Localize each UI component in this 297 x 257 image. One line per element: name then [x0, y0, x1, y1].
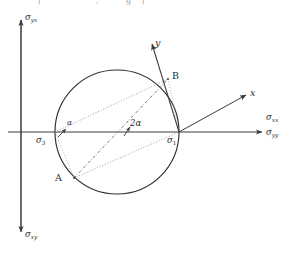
sigma-3-subscript: 3: [42, 140, 46, 146]
label-sigma-3: σ3: [36, 136, 45, 146]
sigma-xy-subscript: xy: [31, 234, 38, 240]
mohr-circle-svg: [0, 0, 297, 257]
label-rotated-x-axis: x: [250, 88, 255, 98]
axis-label-sigma-yx: σyx: [25, 13, 37, 23]
label-angle-alpha: α: [67, 119, 72, 127]
rotated-x-axis: [179, 95, 246, 132]
point-marker-A: [73, 177, 75, 179]
label-angle-two-alpha: 2α: [130, 119, 141, 128]
chord-A-to-sigma1: [74, 132, 179, 178]
label-point-A: A: [55, 173, 62, 183]
diameter-A-B: [74, 79, 168, 178]
sigma-yy-subscript: yy: [272, 132, 279, 138]
axis-label-sigma-xx: σxx: [266, 113, 278, 123]
sigma-xx-subscript: xx: [272, 117, 279, 123]
label-rotated-y-axis: y: [155, 38, 160, 48]
label-sigma-1: σ1: [167, 136, 176, 146]
axis-label-sigma-xy: σxy: [25, 230, 37, 240]
axis-label-sigma-yy: σyy: [266, 128, 278, 138]
sigma-1-subscript: 1: [173, 140, 177, 146]
rotated-y-axis: [152, 44, 179, 132]
figure-canvas: | , g |: [0, 0, 297, 257]
point-marker-B: [167, 78, 169, 80]
sigma-yx-subscript: yx: [31, 17, 38, 23]
alpha-angle-arrow: [58, 129, 66, 137]
label-point-B: B: [172, 71, 179, 81]
